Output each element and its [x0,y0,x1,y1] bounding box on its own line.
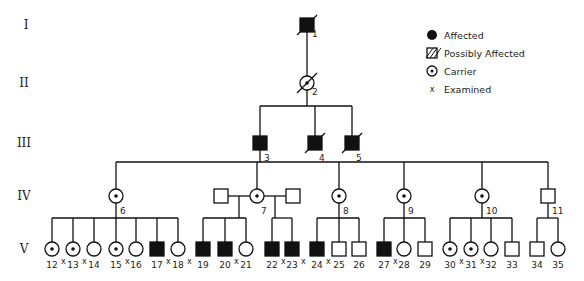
individual-number: 9 [408,206,414,216]
generation-label: IV [17,189,31,203]
individual-23 [285,242,299,256]
male-symbol [214,189,228,203]
individual-number: 26 [353,260,365,270]
male-symbol [310,242,324,256]
individual-24 [310,242,324,256]
individual-11 [541,189,555,203]
individual-26 [352,242,366,256]
individual-number: 6 [120,206,126,216]
generation-label: III [17,136,31,150]
individual-number: 7 [261,206,267,216]
male-symbol [541,189,555,203]
pedigree-chart: IIIIIIIVV123456789101112x13x1415x1617x18… [0,0,584,281]
male-symbol [332,242,346,256]
individual-number: 12 [46,260,57,270]
examined-marker: x [166,257,171,266]
male-symbol [418,242,432,256]
individual-number: 28 [398,260,410,270]
individual-number: 13 [67,260,78,270]
individual-number: 29 [419,260,431,270]
individual-number: 25 [333,260,344,270]
individual-number: 30 [444,260,456,270]
carrier-dot-icon [114,194,118,198]
examined-legend-icon: x [430,85,435,94]
female-symbol [171,242,185,256]
individual-3 [253,136,267,150]
individual-12 [45,242,59,256]
individual-number: 16 [130,260,142,270]
female-symbol [551,242,565,256]
individual-29 [418,242,432,256]
male-symbol [196,242,210,256]
individual-22 [265,242,279,256]
individual-4 [305,133,325,153]
affected-legend-icon [427,30,437,40]
individual-number: 35 [552,260,563,270]
generation-label: II [19,76,29,90]
individual-7b [286,189,300,203]
examined-marker: x [459,257,464,266]
individual-7a [214,189,228,203]
examined-marker: x [393,257,398,266]
individual-number: 19 [197,260,209,270]
individual-20 [218,242,232,256]
examined-marker: x [326,257,331,266]
individual-9 [397,189,411,203]
carrier-dot-icon [431,70,434,73]
individual-6 [109,189,123,203]
individual-number: 8 [343,206,349,216]
individual-number: 32 [485,260,496,270]
individual-32 [484,242,498,256]
female-symbol [484,242,498,256]
carrier-dot-icon [337,194,341,198]
male-symbol [265,242,279,256]
individual-33 [505,242,519,256]
individual-10 [475,189,489,203]
individual-number: 11 [552,206,563,216]
individual-number: 23 [286,260,297,270]
individual-25 [332,242,346,256]
legend-label: Possibly Affected [444,48,525,59]
male-symbol [285,242,299,256]
male-symbol [377,242,391,256]
individual-number: 31 [465,260,476,270]
individual-8 [332,189,346,203]
male-symbol [150,242,164,256]
individual-27 [377,242,391,256]
examined-marker: x [187,257,192,266]
carrier-dot-icon [402,194,406,198]
legend-label: Carrier [444,66,477,77]
individual-16 [129,242,143,256]
individual-number: 1 [312,29,318,39]
generation-label: I [24,18,29,32]
individual-34 [530,242,544,256]
individual-number: 34 [531,260,543,270]
individual-number: 5 [356,153,362,163]
legend-label: Affected [444,30,484,41]
individual-number: 10 [486,206,498,216]
legend: AffectedPossibly AffectedCarrierxExamine… [426,30,525,95]
male-symbol [530,242,544,256]
individual-17 [150,242,164,256]
female-symbol [87,242,101,256]
examined-marker: x [281,257,286,266]
individual-number: 17 [151,260,162,270]
female-symbol [397,242,411,256]
examined-marker: x [301,257,306,266]
individual-number: 14 [88,260,100,270]
individual-14 [87,242,101,256]
individual-18 [171,242,185,256]
male-symbol [286,189,300,203]
generation-label: V [19,242,29,256]
male-symbol [505,242,519,256]
male-symbol [352,242,366,256]
individual-number: 24 [311,260,323,270]
examined-marker: x [82,257,87,266]
carrier-dot-icon [255,194,259,198]
examined-marker: x [234,257,239,266]
carrier-dot-icon [50,247,54,251]
female-symbol [129,242,143,256]
individual-number: 18 [172,260,184,270]
individual-15 [109,242,123,256]
individual-30 [443,242,457,256]
